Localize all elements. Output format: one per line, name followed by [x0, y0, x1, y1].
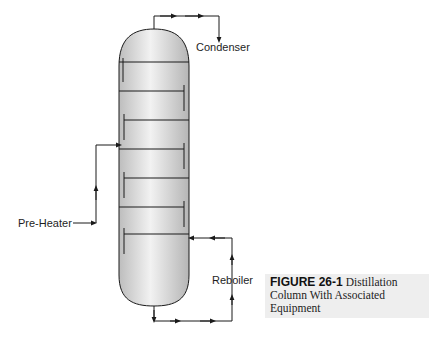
- figure-number: FIGURE 26-1: [270, 275, 343, 289]
- pre-heater-label: Pre-Heater: [18, 217, 72, 229]
- distillation-column: [119, 29, 189, 306]
- figure-caption: FIGURE 26-1Distillation Column With Asso…: [270, 276, 430, 315]
- condenser-label: Condenser: [196, 41, 250, 53]
- pre-heater-line: [73, 145, 119, 223]
- reboiler-label: Reboiler: [212, 274, 253, 286]
